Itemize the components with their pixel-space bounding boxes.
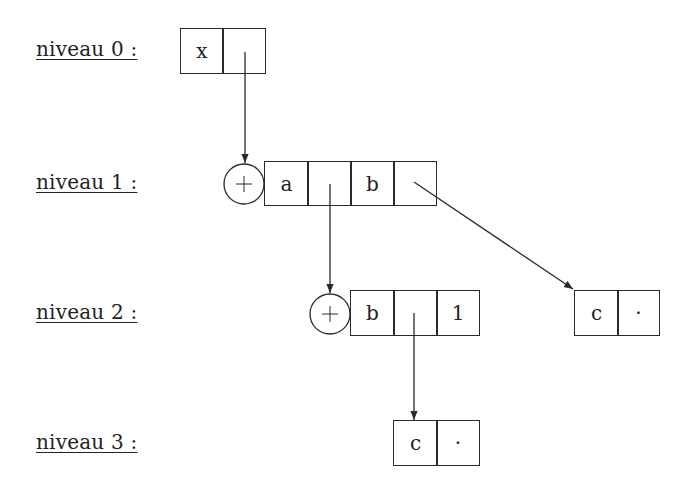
plus-operator-icon-level1 <box>224 164 264 204</box>
node-level1-cell-2: b <box>350 161 395 206</box>
node-level2-main-cell-1 <box>393 290 438 336</box>
node-level0-cell-0: x <box>180 28 224 74</box>
edge-level1-to-level2-right <box>414 182 573 289</box>
node-level0-cell-1 <box>222 28 266 74</box>
node-level2-main-cell-0: b <box>350 290 395 336</box>
node-level2-right-cell-0: c <box>574 290 619 336</box>
node-level1-cell-0: a <box>264 161 309 206</box>
node-level2-right-cell-1: · <box>617 290 660 336</box>
node-level1-cell-1 <box>307 161 352 206</box>
node-level2-main-cell-2: 1 <box>436 290 480 336</box>
diagram-edges <box>0 0 690 493</box>
node-level3-cell-0: c <box>393 420 438 466</box>
plus-operator-icon-level2 <box>310 294 350 334</box>
node-level1-cell-3 <box>393 161 437 206</box>
node-level3-cell-1: · <box>436 420 480 466</box>
